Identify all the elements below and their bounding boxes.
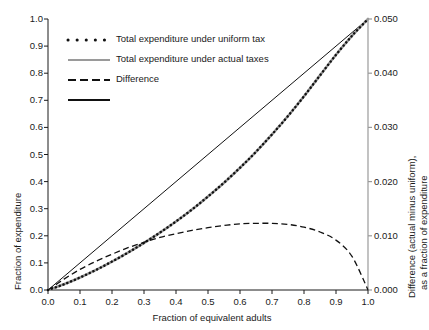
- x-axis-tick-label: 1.0: [354, 296, 382, 307]
- y-axis-left-tick-label: 0.8: [10, 67, 43, 78]
- legend-label: Total expenditure under actual taxes: [116, 53, 269, 64]
- y-axis-left-tick-label: 0.9: [10, 40, 43, 51]
- y-axis-right-title-line1: Difference (actual minus uniform),: [406, 156, 417, 298]
- y-axis-right-tick-label: 0.020: [374, 176, 408, 187]
- y-axis-right-title-line2: as a fraction of expenditure: [418, 175, 429, 290]
- y-axis-left-tick-label: 0.5: [10, 149, 43, 160]
- y-axis-right-tick-label: 0.040: [374, 67, 408, 78]
- y-axis-right-tick-label: 0.010: [374, 230, 408, 241]
- x-axis-tick-label: 0.9: [322, 296, 350, 307]
- y-axis-left-title: Fraction of expenditure: [12, 193, 23, 290]
- legend-label: Total expenditure under uniform tax: [116, 33, 265, 44]
- x-axis-tick-label: 0.3: [130, 296, 158, 307]
- x-axis-tick-label: 0.2: [98, 296, 126, 307]
- y-axis-right-tick-label: 0.050: [374, 13, 408, 24]
- x-axis-tick-label: 0.1: [66, 296, 94, 307]
- x-axis-tick-label: 0.6: [226, 296, 254, 307]
- legend-label: Difference: [116, 73, 159, 84]
- y-axis-left-tick-label: 0.6: [10, 121, 43, 132]
- x-axis-tick-label: 0.5: [194, 296, 222, 307]
- x-axis-tick-label: 0.4: [162, 296, 190, 307]
- series-line-difference: [48, 223, 368, 290]
- x-axis-title: Fraction of equivalent adults: [0, 312, 424, 323]
- y-axis-right-tick-label: 0.030: [374, 121, 408, 132]
- y-axis-left-tick-label: 0.4: [10, 176, 43, 187]
- x-axis-tick-label: 0.8: [290, 296, 318, 307]
- y-axis-right-tick-label: 0.000: [374, 284, 408, 295]
- y-axis-left-tick-label: 1.0: [10, 13, 43, 24]
- x-axis-tick-label: 0.7: [258, 296, 286, 307]
- y-axis-left-tick-label: 0.7: [10, 94, 43, 105]
- x-axis-tick-label: 0.0: [34, 296, 62, 307]
